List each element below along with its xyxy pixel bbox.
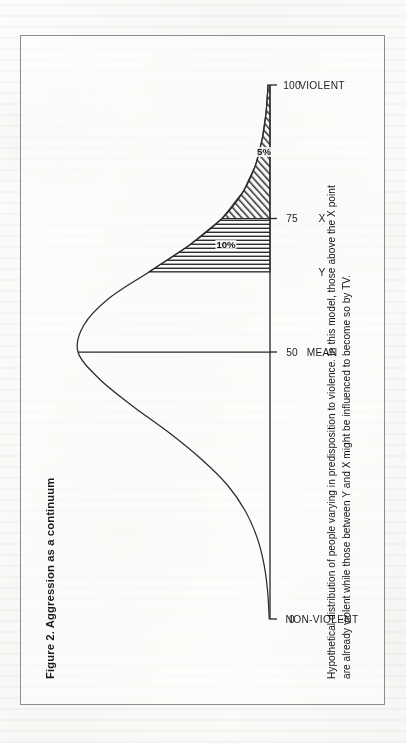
region-percent-label-5pct: 5% — [256, 147, 272, 157]
axis-category-label-x: X — [318, 213, 325, 224]
region-percent-label-10pct: 10% — [216, 240, 237, 250]
point-marker-y: Y — [318, 266, 325, 277]
shaded-region-10-percent — [149, 219, 270, 272]
chart-axis — [270, 85, 277, 619]
axis-tick-label-75: 75 — [286, 213, 298, 224]
rotated-figure-content: Figure 2. Aggression as a continuum — [20, 35, 385, 705]
axis-category-label-violent: VIOLENT — [299, 80, 345, 91]
figure-caption-line-2: are already violent while those between … — [341, 275, 352, 679]
scanned-page: Figure 2. Aggression as a continuum — [0, 0, 406, 743]
figure-caption-line-1: Hypothetical distribution of people vary… — [326, 185, 337, 679]
axis-tick-label-50: 50 — [286, 347, 298, 358]
